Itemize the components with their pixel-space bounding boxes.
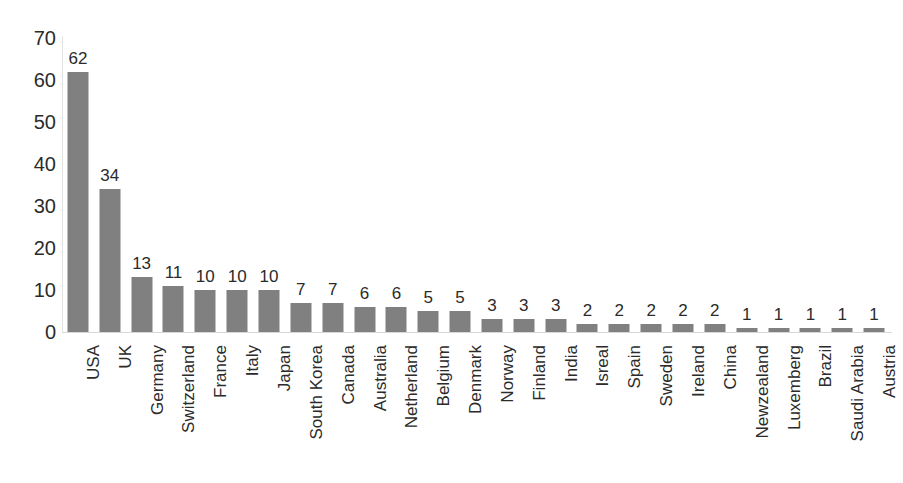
bar-value-label: 1: [806, 306, 815, 323]
y-axis-tick-labels: 010203040506070: [0, 0, 56, 483]
bar[interactable]: [672, 324, 693, 332]
bar-value-label: 1: [774, 306, 783, 323]
bar[interactable]: [163, 286, 184, 332]
bar-value-label: 34: [100, 167, 119, 184]
bar-group: 2China: [699, 0, 731, 483]
y-axis-tick-label: 60: [0, 70, 56, 90]
bar-series: 62USA34UK13Germany11Switzerland10France1…: [62, 0, 892, 483]
bar-group: 6Netherland: [380, 0, 412, 483]
bar[interactable]: [290, 303, 311, 332]
bar-group: 34UK: [94, 0, 126, 483]
bar[interactable]: [195, 290, 216, 332]
bar[interactable]: [545, 319, 566, 332]
bar-group: 1Brazil: [794, 0, 826, 483]
bar-group: 2Isreal: [572, 0, 604, 483]
bar-value-label: 2: [615, 302, 624, 319]
bar-group: 62USA: [62, 0, 94, 483]
bar[interactable]: [386, 307, 407, 332]
bar-value-label: 2: [710, 302, 719, 319]
y-axis-tick-label: 50: [0, 112, 56, 132]
bar-value-label: 6: [360, 285, 369, 302]
y-axis-tick-label: 0: [0, 322, 56, 342]
bar-value-label: 5: [423, 289, 432, 306]
bar[interactable]: [322, 303, 343, 332]
bar[interactable]: [768, 328, 789, 332]
bar-value-label: 62: [68, 50, 87, 67]
bar[interactable]: [832, 328, 853, 332]
bar-group: 7Canada: [317, 0, 349, 483]
y-axis-tick-label: 30: [0, 196, 56, 216]
bar-group: 1Luxemberg: [763, 0, 795, 483]
bar[interactable]: [418, 311, 439, 332]
bar[interactable]: [609, 324, 630, 332]
bar-group: 2Ireland: [667, 0, 699, 483]
bar-group: 1Saudi Arabia: [826, 0, 858, 483]
bar-value-label: 1: [837, 306, 846, 323]
bar[interactable]: [864, 328, 885, 332]
bar[interactable]: [641, 324, 662, 332]
bar-value-label: 2: [646, 302, 655, 319]
bar-value-label: 13: [132, 255, 151, 272]
bar-value-label: 10: [196, 268, 215, 285]
bar-group: 11Switzerland: [158, 0, 190, 483]
bar[interactable]: [99, 189, 120, 332]
bar-value-label: 2: [678, 302, 687, 319]
bar-value-label: 5: [455, 289, 464, 306]
y-axis-tick-label: 40: [0, 154, 56, 174]
bar-group: 10Italy: [221, 0, 253, 483]
bar-value-label: 10: [260, 268, 279, 285]
bar-group: 10France: [189, 0, 221, 483]
bar-group: 1Newzealand: [731, 0, 763, 483]
bar[interactable]: [481, 319, 502, 332]
bar-value-label: 10: [228, 268, 247, 285]
bar[interactable]: [227, 290, 248, 332]
bar-value-label: 6: [392, 285, 401, 302]
y-axis-tick-label: 70: [0, 28, 56, 48]
bar-value-label: 1: [742, 306, 751, 323]
bar-group: 3India: [540, 0, 572, 483]
bar[interactable]: [67, 72, 88, 332]
x-axis-category-label: Austria: [881, 345, 898, 398]
bar[interactable]: [736, 328, 757, 332]
bar-group: 10Japan: [253, 0, 285, 483]
bar-value-label: 2: [583, 302, 592, 319]
bar[interactable]: [577, 324, 598, 332]
bar-group: 5Belgium: [412, 0, 444, 483]
bar[interactable]: [450, 311, 471, 332]
bar-value-label: 3: [551, 297, 560, 314]
bar[interactable]: [354, 307, 375, 332]
bar[interactable]: [704, 324, 725, 332]
bar[interactable]: [131, 277, 152, 332]
bar[interactable]: [258, 290, 279, 332]
bar-value-label: 7: [296, 281, 305, 298]
y-axis-tick-label: 10: [0, 280, 56, 300]
bar-value-label: 3: [519, 297, 528, 314]
y-axis-tick-label: 20: [0, 238, 56, 258]
bar-group: 3Finland: [508, 0, 540, 483]
bar-value-label: 3: [487, 297, 496, 314]
bar-value-label: 1: [869, 306, 878, 323]
bar-value-label: 7: [328, 281, 337, 298]
bar[interactable]: [513, 319, 534, 332]
bar-group: 5Denmark: [444, 0, 476, 483]
bar-chart: 010203040506070 62USA34UK13Germany11Swit…: [0, 0, 903, 483]
bar-group: 1Austria: [858, 0, 890, 483]
bar-group: 7South Korea: [285, 0, 317, 483]
bar-group: 6Australia: [349, 0, 381, 483]
bar[interactable]: [800, 328, 821, 332]
bar-group: 2Spain: [603, 0, 635, 483]
bar-group: 2Sweden: [635, 0, 667, 483]
bar-group: 3Norway: [476, 0, 508, 483]
bar-value-label: 11: [165, 264, 183, 281]
bar-group: 13Germany: [126, 0, 158, 483]
